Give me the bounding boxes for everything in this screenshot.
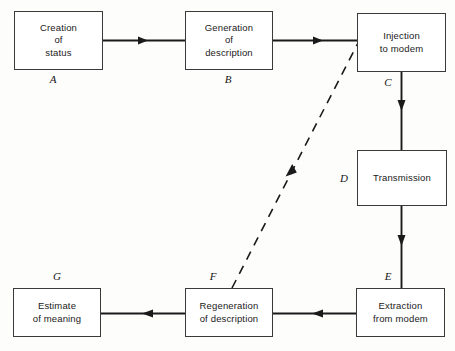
edge-transmission-to-extraction [398,206,406,288]
node-extraction-from-modem[interactable]: Extraction from modem [356,288,445,337]
node-label-e: E [385,270,392,282]
node-transmission[interactable]: Transmission [357,150,447,206]
node-injection-to-modem[interactable]: Injection to modem [357,13,446,72]
node-label-a: A [50,73,57,85]
node-label-f: F [210,270,217,282]
edge-creation-to-generation [103,37,185,45]
node-generation-of-description[interactable]: Generation of description [185,11,273,70]
node-label-c: C [384,76,391,88]
node-label-g: G [53,270,61,282]
edge-generation-to-injection [273,37,359,45]
node-creation-of-status[interactable]: Creation of status [14,11,103,70]
edge-regeneration-to-injection-feedback [232,41,359,288]
node-regeneration-of-description[interactable]: Regeneration of description [185,288,273,337]
edge-regeneration-to-estimate [101,310,185,318]
node-label-d: D [340,172,348,184]
node-label-b: B [225,73,232,85]
edge-injection-to-transmission [398,72,406,150]
edge-extraction-to-regeneration [273,310,356,318]
node-estimate-of-meaning[interactable]: Estimate of meaning [13,288,101,337]
flow-diagram: Creation of status Generation of descrip… [0,0,455,351]
